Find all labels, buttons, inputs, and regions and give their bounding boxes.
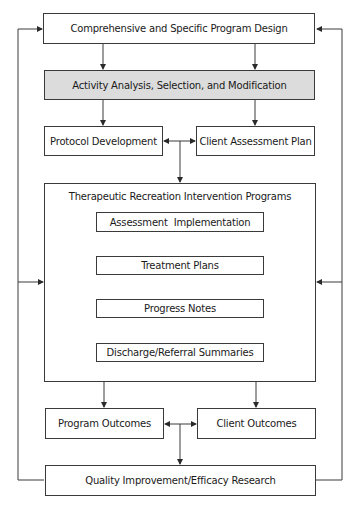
activity-analysis-box: Activity Analysis, Selection, and Modifi… [44,70,315,100]
comprehensive-program-design-label: Comprehensive and Specific Program Desig… [70,23,287,34]
treatment-plans-label: Treatment Plans [141,260,219,271]
protocol-development-box: Protocol Development [44,126,163,156]
quality-improvement-box: Quality Improvement/Efficacy Research [45,465,316,496]
activity-analysis-label: Activity Analysis, Selection, and Modifi… [72,80,286,91]
assessment-implementation-label: Assessment Implementation [110,217,251,228]
program-outcomes-box: Program Outcomes [45,408,164,439]
discharge-referral-box: Discharge/Referral Summaries [96,343,264,362]
client-outcomes-label: Client Outcomes [217,418,297,429]
protocol-development-label: Protocol Development [50,136,157,147]
client-outcomes-box: Client Outcomes [197,408,316,439]
discharge-referral-label: Discharge/Referral Summaries [107,347,254,358]
progress-notes-box: Progress Notes [96,299,264,318]
client-assessment-plan-label: Client Assessment Plan [199,136,311,147]
intervention-programs-title: Therapeutic Recreation Intervention Prog… [45,191,315,202]
assessment-implementation-box: Assessment Implementation [96,212,264,232]
progress-notes-label: Progress Notes [144,303,216,314]
program-outcomes-label: Program Outcomes [58,418,151,429]
client-assessment-plan-box: Client Assessment Plan [196,126,315,156]
treatment-plans-box: Treatment Plans [96,256,264,275]
quality-improvement-label: Quality Improvement/Efficacy Research [85,475,275,486]
comprehensive-program-design-box: Comprehensive and Specific Program Desig… [43,13,315,44]
